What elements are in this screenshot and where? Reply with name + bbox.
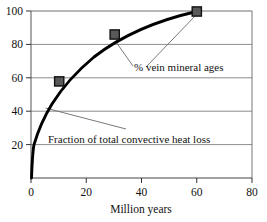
data-marker-10my — [55, 77, 64, 86]
plot-background — [31, 11, 252, 178]
x-tick-label-0: 0 — [28, 186, 34, 198]
data-marker-60my — [192, 7, 201, 16]
x-tick-label-60: 60 — [191, 186, 203, 198]
x-axis-ticks — [31, 178, 252, 183]
x-tick-label-40: 40 — [136, 186, 148, 198]
y-tick-label-100: 100 — [6, 5, 24, 17]
y-tick-label-60: 60 — [12, 72, 24, 84]
y-tick-label-80: 80 — [12, 38, 24, 50]
annotation-convective-heat-loss: Fraction of total convective heat loss — [48, 133, 210, 145]
y-tick-label-20: 20 — [12, 139, 24, 151]
x-tick-label-20: 20 — [81, 186, 93, 198]
chart-canvas: 100 80 60 40 20 0 20 40 60 80 Million ye… — [0, 0, 267, 222]
x-tick-label-80: 80 — [246, 186, 258, 198]
y-tick-label-40: 40 — [12, 105, 24, 117]
annotation-vein-mineral-ages: % vein mineral ages — [134, 61, 224, 73]
y-axis-ticks — [26, 11, 31, 145]
chart-figure: 100 80 60 40 20 0 20 40 60 80 Million ye… — [0, 0, 267, 222]
x-axis-title: Million years — [110, 203, 172, 216]
data-marker-30my — [110, 30, 119, 39]
